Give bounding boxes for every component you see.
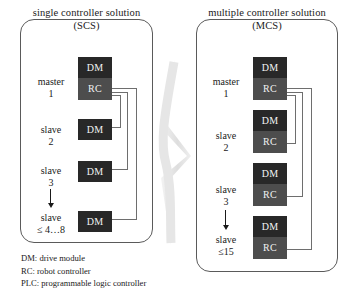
scs-master-rc-box: RC xyxy=(78,78,112,100)
mcs-link2-vert xyxy=(302,92,303,196)
panel-mcs-title-line1: multiple controller solution xyxy=(194,6,340,19)
panel-scs-title-line1: single controller solution xyxy=(20,6,153,19)
scs-link2-bottom xyxy=(112,169,128,170)
mcs-slave2-dm-box: DM xyxy=(253,110,287,131)
scs-row0-line2: 1 xyxy=(28,88,74,100)
scs-master-dm-box: DM xyxy=(78,57,112,78)
scs-row-label-slave-3: slave 3 xyxy=(28,165,74,189)
mcs-row1-line2: 2 xyxy=(202,142,250,154)
scs-slave2-dm-label: DM xyxy=(87,125,104,135)
scs-slave2-dm-box: DM xyxy=(78,119,112,140)
scs-continuation-arrow xyxy=(48,189,55,209)
mcs-master-rc-box: RC xyxy=(253,78,287,100)
legend-item-rc: RC: robot controller xyxy=(21,265,251,278)
panel-mcs-title-line2: (MCS) xyxy=(194,19,340,32)
mcs-slavemax-dm-box: DM xyxy=(253,216,287,237)
scs-slave3-dm-box: DM xyxy=(78,161,112,182)
scs-row-label-master-1: master 1 xyxy=(28,76,74,100)
mcs-row2-line1: slave xyxy=(202,184,250,196)
mcs-link1-vert xyxy=(295,95,296,143)
scs-row2-line2: 3 xyxy=(28,177,74,189)
mcs-link1-top xyxy=(287,95,296,96)
mcs-continuation-arrow xyxy=(223,210,230,232)
scs-link1-vert xyxy=(120,95,121,127)
mcs-slave2-rc-box: RC xyxy=(253,131,287,153)
mcs-slave3-dm-box: DM xyxy=(253,163,287,184)
scs-master-dm-label: DM xyxy=(87,63,104,73)
scs-slave3-dm-label: DM xyxy=(87,167,104,177)
mcs-link2-top xyxy=(287,92,303,93)
mcs-slave3-rc-box: RC xyxy=(253,184,287,206)
diagram-canvas: single controller solution (SCS) master … xyxy=(0,0,353,302)
scs-master-rc-label: RC xyxy=(88,84,102,94)
scs-link1-top xyxy=(112,95,121,96)
mcs-slavemax-rc-label: RC xyxy=(263,243,277,253)
legend: DM: drive module RC: robot controller PL… xyxy=(21,252,251,290)
mcs-row1-line1: slave xyxy=(202,130,250,142)
mcs-link3-vert xyxy=(311,88,312,249)
mcs-slavemax-dm-label: DM xyxy=(262,222,279,232)
scs-row1-line1: slave xyxy=(28,124,74,136)
scs-link3-vert xyxy=(136,88,137,219)
mcs-slave3-rc-label: RC xyxy=(263,190,277,200)
scs-row3-line1: slave xyxy=(22,212,80,224)
mcs-master-dm-box: DM xyxy=(253,57,287,78)
scs-link3-bottom xyxy=(112,219,137,220)
panel-mcs-title: multiple controller solution (MCS) xyxy=(194,6,340,32)
mcs-slave2-rc-label: RC xyxy=(263,137,277,147)
scs-link3-top xyxy=(112,88,137,89)
center-arrow-shape xyxy=(157,60,197,245)
mcs-row0-line2: 1 xyxy=(202,88,250,100)
scs-slavemax-dm-label: DM xyxy=(87,217,104,227)
scs-row-label-slave-2: slave 2 xyxy=(28,124,74,148)
mcs-slave2-dm-label: DM xyxy=(262,116,279,126)
scs-link1-bottom xyxy=(112,127,121,128)
mcs-row-label-slave-3: slave 3 xyxy=(202,184,250,208)
mcs-link3-bottom xyxy=(287,249,312,250)
mcs-link3-top xyxy=(287,88,312,89)
legend-item-dm: DM: drive module xyxy=(21,252,251,265)
mcs-link2-bottom xyxy=(287,196,303,197)
scs-link2-top xyxy=(112,92,128,93)
scs-row3-line2: ≤ 4…8 xyxy=(22,224,80,236)
mcs-master-dm-label: DM xyxy=(262,63,279,73)
panel-scs-title: single controller solution (SCS) xyxy=(20,6,153,32)
scs-row0-line1: master xyxy=(28,76,74,88)
mcs-row3-line1: slave xyxy=(202,234,250,246)
scs-row-label-slave-max: slave ≤ 4…8 xyxy=(22,212,80,236)
mcs-row-label-master-1: master 1 xyxy=(202,76,250,100)
mcs-row2-line2: 3 xyxy=(202,196,250,208)
scs-row1-line2: 2 xyxy=(28,136,74,148)
mcs-slavemax-rc-box: RC xyxy=(253,237,287,259)
mcs-row0-line1: master xyxy=(202,76,250,88)
mcs-row-label-slave-2: slave 2 xyxy=(202,130,250,154)
mcs-slave3-dm-label: DM xyxy=(262,169,279,179)
mcs-link1-bottom xyxy=(287,143,296,144)
legend-item-plc: PLC: programmable logic controller xyxy=(21,277,251,290)
scs-row2-line1: slave xyxy=(28,165,74,177)
scs-link2-vert xyxy=(127,92,128,169)
mcs-master-rc-label: RC xyxy=(263,84,277,94)
panel-scs-title-line2: (SCS) xyxy=(20,19,153,32)
scs-slavemax-dm-box: DM xyxy=(78,211,112,232)
